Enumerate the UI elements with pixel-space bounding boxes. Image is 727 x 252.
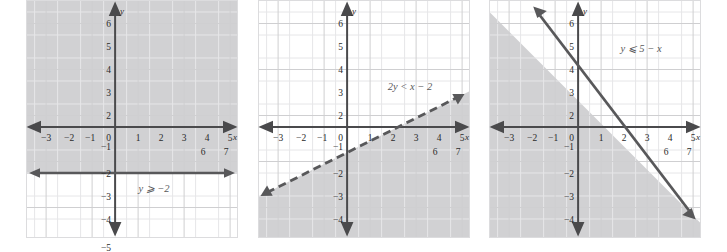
svg-text:6: 6 (201, 147, 206, 157)
svg-text:7: 7 (687, 147, 692, 157)
y-tick-labels-extra: −5 (101, 243, 111, 252)
svg-text:7: 7 (224, 147, 229, 157)
x-tick-labels-extra-1: 67 (201, 147, 229, 157)
x-tick-labels-extra-2: 67 (433, 147, 461, 157)
svg-text:−5: −5 (101, 243, 111, 252)
svg-text:6: 6 (433, 147, 438, 157)
overflow-ticks: 67 67 67 −5 (0, 0, 727, 252)
x-tick-labels-extra-3: 67 (664, 147, 692, 157)
svg-text:6: 6 (664, 147, 669, 157)
figure-root: −3−2 −10 12 34 5 6 654 32 −1−2 −3−4 y x … (0, 0, 727, 252)
svg-text:7: 7 (456, 147, 461, 157)
